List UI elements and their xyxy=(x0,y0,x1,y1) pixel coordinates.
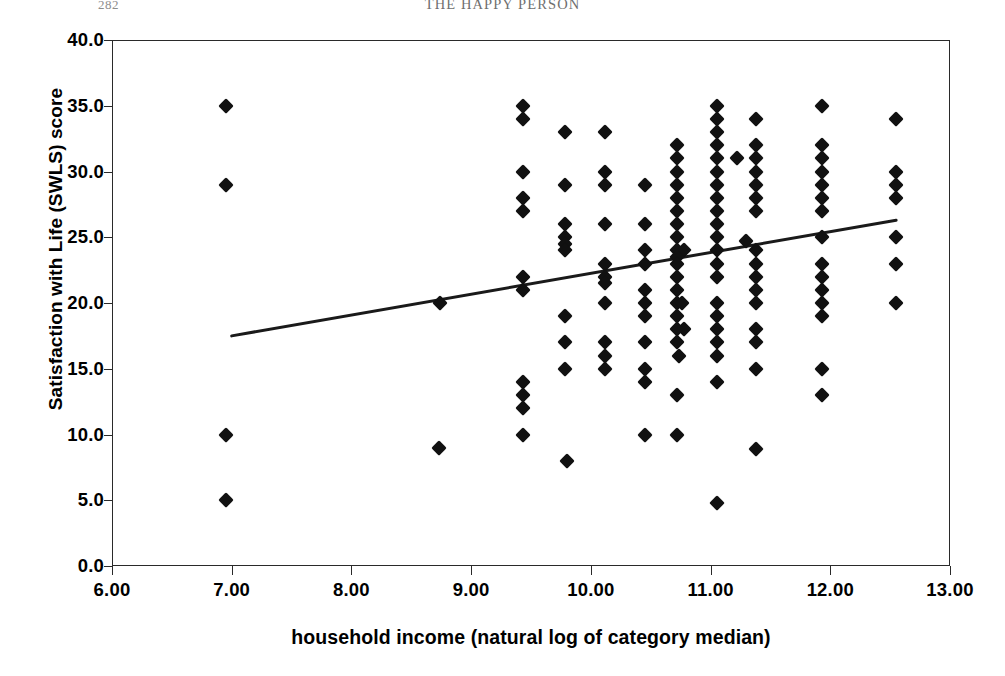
data-point-marker xyxy=(709,374,725,390)
x-tick-mark xyxy=(351,566,352,575)
y-axis-title: Satisfaction with Life (SWLS) score xyxy=(45,0,67,509)
data-point-marker xyxy=(515,282,531,298)
data-point-marker xyxy=(597,177,613,193)
data-point-marker xyxy=(814,361,830,377)
data-point-marker xyxy=(669,427,685,443)
data-point-marker xyxy=(597,124,613,140)
data-point-marker xyxy=(709,269,725,285)
data-point-marker xyxy=(748,441,764,457)
data-point-marker xyxy=(218,98,234,114)
x-tick-mark xyxy=(950,566,951,575)
data-point-marker xyxy=(748,361,764,377)
data-point-marker xyxy=(557,361,573,377)
data-point-marker xyxy=(557,124,573,140)
data-point-marker xyxy=(709,495,725,511)
data-point-marker xyxy=(748,335,764,351)
scatter-plot-figure: 0.05.010.015.020.025.030.035.040.0 6.007… xyxy=(0,0,1005,676)
data-point-marker xyxy=(557,335,573,351)
data-point-marker xyxy=(637,308,653,324)
y-tick-mark xyxy=(104,172,112,173)
data-point-marker xyxy=(888,229,904,245)
data-point-marker xyxy=(814,98,830,114)
x-tick-label: 11.00 xyxy=(687,579,733,601)
y-tick-mark xyxy=(104,40,112,41)
data-point-marker xyxy=(888,190,904,206)
data-point-marker xyxy=(637,427,653,443)
y-tick-mark xyxy=(104,566,112,567)
data-point-marker xyxy=(515,164,531,180)
y-tick-mark xyxy=(104,369,112,370)
y-tick-label: 35.0 xyxy=(67,95,104,117)
x-tick-mark xyxy=(232,566,233,575)
data-point-marker xyxy=(748,111,764,127)
data-point-marker xyxy=(669,335,685,351)
data-point-marker xyxy=(729,151,745,167)
x-tick-label: 10.00 xyxy=(567,579,614,601)
y-tick-label: 40.0 xyxy=(67,29,104,51)
data-point-marker xyxy=(515,427,531,443)
data-point-marker xyxy=(814,308,830,324)
x-tick-mark xyxy=(471,566,472,575)
data-point-marker xyxy=(597,295,613,311)
data-point-marker xyxy=(515,203,531,219)
plot-area xyxy=(112,40,950,566)
data-point-marker xyxy=(637,177,653,193)
y-tick-label: 0.0 xyxy=(78,555,104,577)
data-point-marker xyxy=(888,111,904,127)
data-point-marker xyxy=(888,295,904,311)
data-point-marker xyxy=(515,400,531,416)
y-tick-mark xyxy=(104,106,112,107)
x-tick-label: 7.00 xyxy=(213,579,250,601)
data-point-marker xyxy=(515,111,531,127)
y-tick-label: 25.0 xyxy=(67,226,104,248)
x-tick-mark xyxy=(830,566,831,575)
y-tick-label: 20.0 xyxy=(67,292,104,314)
data-point-marker xyxy=(218,492,234,508)
x-tick-mark xyxy=(112,566,113,575)
y-tick-mark xyxy=(104,303,112,304)
x-tick-mark xyxy=(711,566,712,575)
data-point-marker xyxy=(748,203,764,219)
data-point-marker xyxy=(748,295,764,311)
x-tick-label: 8.00 xyxy=(333,579,370,601)
y-tick-label: 10.0 xyxy=(67,424,104,446)
x-tick-label: 12.00 xyxy=(807,579,854,601)
data-point-marker xyxy=(888,256,904,272)
x-tick-label: 9.00 xyxy=(453,579,490,601)
data-point-marker xyxy=(814,387,830,403)
data-point-marker xyxy=(431,440,447,456)
data-point-marker xyxy=(669,387,685,403)
x-axis-title: household income (natural log of categor… xyxy=(112,626,950,649)
data-point-marker xyxy=(637,335,653,351)
data-point-marker xyxy=(597,361,613,377)
data-point-marker xyxy=(559,453,575,469)
y-tick-mark xyxy=(104,435,112,436)
x-axis-ticks: 6.007.008.009.0010.0011.0012.0013.00 xyxy=(112,566,950,612)
data-point-marker xyxy=(557,308,573,324)
data-point-marker xyxy=(637,216,653,232)
x-tick-mark xyxy=(591,566,592,575)
data-point-marker xyxy=(814,203,830,219)
data-point-marker xyxy=(709,348,725,364)
y-tick-label: 5.0 xyxy=(78,489,104,511)
y-tick-label: 30.0 xyxy=(67,161,104,183)
data-point-marker xyxy=(814,229,830,245)
data-point-marker xyxy=(637,374,653,390)
y-tick-mark xyxy=(104,500,112,501)
x-tick-label: 13.00 xyxy=(926,579,973,601)
data-point-marker xyxy=(637,256,653,272)
data-point-marker xyxy=(218,427,234,443)
data-point-marker xyxy=(432,295,448,311)
x-tick-label: 6.00 xyxy=(94,579,131,601)
y-tick-label: 15.0 xyxy=(67,358,104,380)
data-point-marker xyxy=(557,177,573,193)
data-point-marker xyxy=(672,348,688,364)
y-tick-mark xyxy=(104,237,112,238)
data-point-marker xyxy=(597,216,613,232)
data-point-marker xyxy=(218,177,234,193)
